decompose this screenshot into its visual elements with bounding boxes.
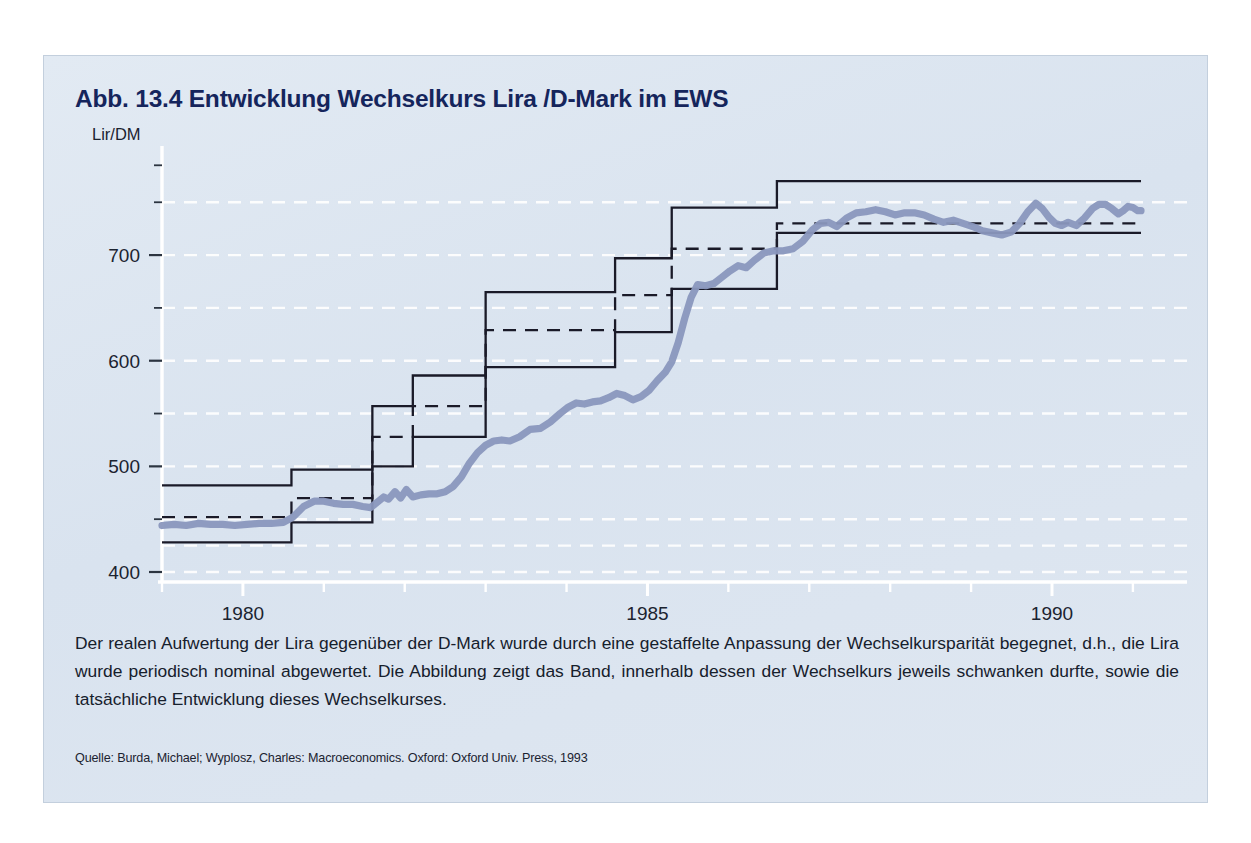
figure-panel: Abb. 13.4 Entwicklung Wechselkurs Lira /… xyxy=(44,56,1207,802)
figure-source: Quelle: Burda, Michael; Wyplosz, Charles… xyxy=(75,751,1179,765)
y-tick-label-500: 500 xyxy=(108,456,140,477)
page-root: Abb. 13.4 Entwicklung Wechselkurs Lira /… xyxy=(0,0,1251,843)
y-tick-label-400: 400 xyxy=(108,562,140,583)
x-tick-label-1980: 1980 xyxy=(222,603,264,624)
axis-tick-labels: 400500600700Lir/DM198019851990 xyxy=(92,125,1073,624)
x-tick-label-1990: 1990 xyxy=(1031,603,1073,624)
y-axis-unit-label: Lir/DM xyxy=(92,125,141,143)
x-tick-label-1985: 1985 xyxy=(626,603,668,624)
series-actual-rate xyxy=(162,203,1141,525)
series-central-parity xyxy=(162,223,1141,517)
y-tick-label-700: 700 xyxy=(108,245,140,266)
figure-caption: Der realen Aufwertung der Lira gegenüber… xyxy=(75,629,1179,714)
y-tick-label-600: 600 xyxy=(108,351,140,372)
gridlines xyxy=(162,202,1187,572)
